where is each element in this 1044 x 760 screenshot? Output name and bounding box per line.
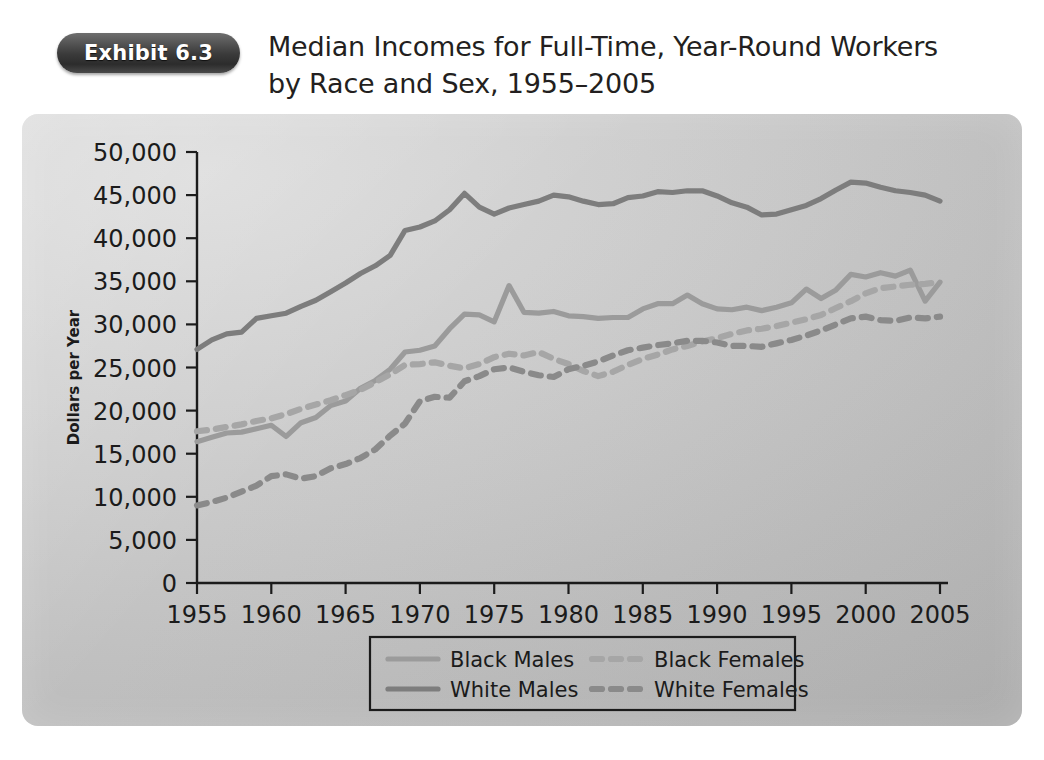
exhibit-figure: Exhibit 6.3 Median Incomes for Full-Time…: [0, 0, 1044, 760]
exhibit-header: Exhibit 6.3 Median Incomes for Full-Time…: [0, 0, 1044, 115]
exhibit-title: Median Incomes for Full-Time, Year-Round…: [268, 28, 978, 102]
chart-panel: [22, 114, 1022, 726]
exhibit-badge: Exhibit 6.3: [57, 33, 240, 73]
